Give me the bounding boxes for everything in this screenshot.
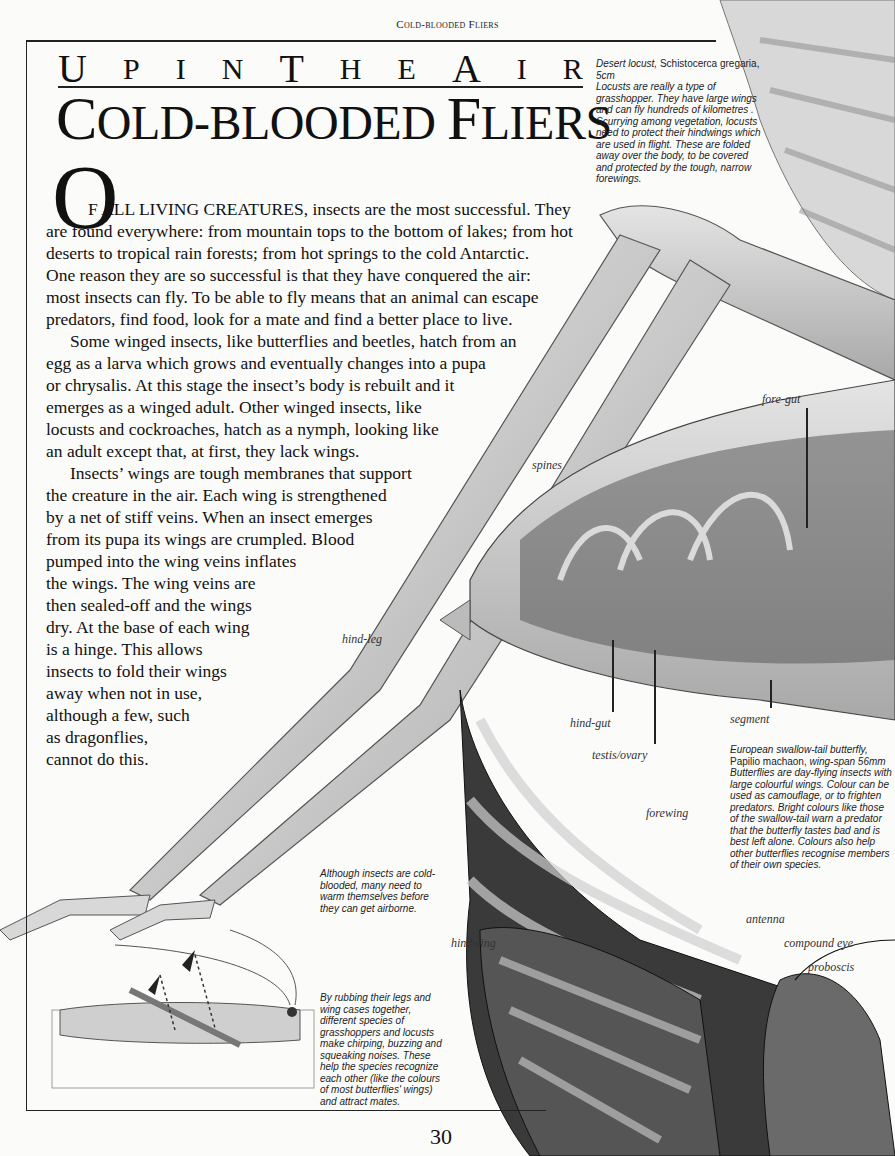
kicker-letter: I <box>176 52 186 86</box>
page-number: 30 <box>430 1124 452 1150</box>
kicker-letter: A <box>452 52 481 86</box>
label-hind-gut: hind-gut <box>570 716 611 731</box>
warm-up-caption: Although insects are cold-blooded, many … <box>320 868 440 914</box>
label-testis-ovary: testis/ovary <box>592 748 647 763</box>
label-forewing: forewing <box>646 806 688 821</box>
kicker-letter: T <box>279 52 303 86</box>
locust-caption: Desert locust, Schistocerca gregaria, 5c… <box>596 58 766 185</box>
kicker-letter: I <box>517 52 527 86</box>
frame-left-rule <box>26 40 27 1110</box>
label-compound-eye: compound eye <box>784 936 853 951</box>
label-segment: segment <box>730 712 769 727</box>
kicker-letter: U <box>58 52 87 86</box>
label-hind-leg: hind-leg <box>342 632 382 647</box>
leader-segment <box>770 680 772 708</box>
label-hindwing: hindwing <box>451 936 496 951</box>
label-fore-gut: fore-gut <box>762 392 800 407</box>
leader-fore-gut <box>806 408 808 528</box>
leader-testis-ovary <box>654 650 656 744</box>
frame-top-rule <box>26 40 716 42</box>
section-kicker: U P I N T H E A I R <box>58 52 583 88</box>
butterfly-caption: European swallow-tail butterfly, Papilio… <box>730 744 892 871</box>
kicker-letter: N <box>222 52 244 86</box>
kicker-letter: E <box>398 52 416 86</box>
label-antenna: antenna <box>746 912 785 927</box>
frame-bottom-rule <box>26 1110 546 1111</box>
kicker-letter: R <box>563 52 583 86</box>
kicker-letter: H <box>340 52 362 86</box>
kicker-letter: P <box>123 52 140 86</box>
running-head: Cold-blooded Fliers <box>0 18 895 30</box>
leader-hind-gut <box>612 640 614 712</box>
intro-paragraph: F ALL LIVING CREATURES, insects are the … <box>46 198 606 770</box>
label-proboscis: proboscis <box>808 960 854 975</box>
label-spines: spines <box>532 458 562 473</box>
sound-caption: By rubbing their legs and wing cases tog… <box>320 992 445 1107</box>
page-title: COLD-BLOODED FLIERS <box>56 88 612 153</box>
